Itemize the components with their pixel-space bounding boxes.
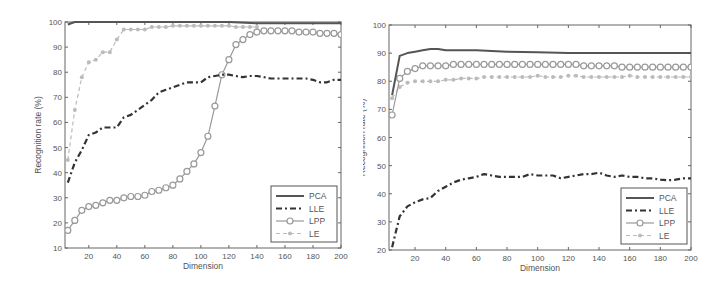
legend-marker-star: [638, 234, 642, 238]
lpp-marker-circle: [142, 192, 148, 198]
lpp-marker-circle: [642, 64, 648, 70]
lpp-marker-circle: [558, 61, 564, 67]
lpp-marker-circle: [114, 197, 120, 203]
lpp-marker-circle: [496, 61, 502, 67]
lpp-marker-circle: [226, 57, 232, 63]
legend-marker-star: [288, 232, 292, 236]
legend-label-lpp: LPP: [659, 218, 675, 228]
le-marker-star: [178, 24, 182, 28]
le-marker-star: [597, 75, 601, 79]
lpp-marker-circle: [268, 28, 274, 34]
lpp-marker-circle: [412, 66, 418, 72]
le-marker-star: [543, 75, 547, 79]
le-marker-star: [122, 28, 126, 32]
lpp-marker-circle: [604, 63, 610, 69]
series-line-lle: [68, 75, 341, 183]
le-marker-star: [536, 74, 540, 78]
y-tick-label: 70: [53, 93, 62, 102]
le-marker-star: [620, 75, 624, 79]
le-marker-star: [589, 75, 593, 79]
lpp-marker-circle: [296, 29, 302, 35]
le-marker-star: [171, 24, 175, 28]
le-marker-star: [241, 25, 245, 29]
lpp-marker-circle: [303, 29, 309, 35]
legend-label-pca: PCA: [659, 193, 677, 203]
lpp-marker-circle: [79, 207, 85, 213]
lpp-marker-circle: [473, 61, 479, 67]
legend-label-le: LE: [659, 231, 670, 241]
x-tick-label: 160: [623, 254, 637, 263]
le-marker-star: [87, 60, 91, 64]
lpp-marker-circle: [550, 61, 556, 67]
lpp-marker-circle: [634, 64, 640, 70]
le-marker-star: [73, 108, 77, 112]
le-marker-star: [520, 75, 524, 79]
le-marker-star: [405, 81, 409, 85]
le-marker-star: [681, 75, 685, 79]
le-marker-star: [574, 74, 578, 78]
le-marker-star: [185, 24, 189, 28]
x-tick-label: 80: [168, 252, 177, 261]
x-tick-label: 140: [592, 254, 606, 263]
le-marker-star: [605, 75, 609, 79]
lpp-marker-circle: [611, 63, 617, 69]
legend-box: [621, 188, 687, 244]
lpp-marker-circle: [627, 64, 633, 70]
lpp-marker-circle: [535, 61, 541, 67]
le-marker-star: [490, 75, 494, 79]
lpp-marker-circle: [466, 61, 472, 67]
lpp-marker-circle: [596, 63, 602, 69]
lpp-marker-circle: [581, 63, 587, 69]
lpp-marker-circle: [435, 63, 441, 69]
x-tick-label: 20: [411, 254, 420, 263]
y-tick-label: 40: [377, 190, 386, 199]
le-marker-star: [582, 75, 586, 79]
lpp-marker-circle: [170, 182, 176, 188]
lpp-marker-circle: [261, 28, 267, 34]
lpp-marker-circle: [86, 204, 92, 210]
lpp-marker-circle: [282, 28, 288, 34]
legend: PCALLELPPLE: [621, 188, 687, 244]
le-marker-star: [459, 76, 463, 80]
le-marker-star: [234, 25, 238, 29]
le-marker-star: [199, 24, 203, 28]
chart-right-recognition-rate: 2030405060708090100204060801001201401601…: [363, 0, 726, 286]
lpp-marker-circle: [665, 64, 671, 70]
lpp-marker-circle: [404, 68, 410, 74]
y-tick-label: 30: [53, 194, 62, 203]
lpp-marker-circle: [527, 61, 533, 67]
le-marker-star: [666, 75, 670, 79]
x-tick-label: 160: [278, 252, 292, 261]
le-marker-star: [428, 79, 432, 83]
lpp-marker-circle: [177, 176, 183, 182]
chart-right-canvas: 2030405060708090100204060801001201401601…: [363, 0, 726, 286]
lpp-marker-circle: [100, 200, 106, 206]
lpp-marker-circle: [458, 61, 464, 67]
le-marker-star: [628, 74, 632, 78]
y-tick-label: 100: [49, 18, 63, 27]
lpp-marker-circle: [450, 61, 456, 67]
lpp-marker-circle: [420, 63, 426, 69]
le-marker-star: [255, 25, 259, 29]
lpp-marker-circle: [588, 63, 594, 69]
x-tick-label: 40: [112, 252, 121, 261]
lpp-marker-circle: [163, 185, 169, 191]
y-tick-label: 80: [53, 68, 62, 77]
le-marker-star: [651, 75, 655, 79]
lpp-marker-circle: [673, 64, 679, 70]
le-marker-star: [436, 79, 440, 83]
lpp-marker-circle: [135, 194, 141, 200]
le-marker-star: [213, 24, 217, 28]
lpp-marker-circle: [191, 161, 197, 167]
le-marker-star: [206, 24, 210, 28]
legend-label-lle: LLE: [309, 204, 324, 214]
lpp-marker-circle: [619, 64, 625, 70]
lpp-marker-circle: [310, 29, 316, 35]
x-axis-label: Dimension: [183, 261, 223, 271]
le-marker-star: [157, 25, 161, 29]
le-marker-star: [482, 75, 486, 79]
lpp-marker-circle: [427, 63, 433, 69]
x-tick-label: 200: [334, 252, 348, 261]
y-tick-label: 60: [377, 134, 386, 143]
le-marker-star: [528, 75, 532, 79]
